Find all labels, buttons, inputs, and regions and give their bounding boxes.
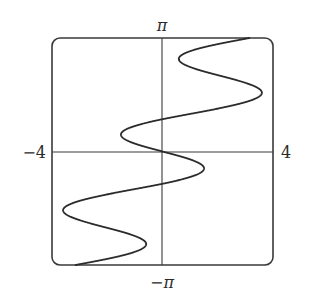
chart-figure: π −π −4 4 — [0, 0, 311, 305]
y-min-label: −π — [150, 273, 174, 292]
x-max-label: 4 — [281, 143, 291, 162]
y-max-label: π — [156, 16, 168, 35]
x-min-label: −4 — [22, 143, 46, 162]
